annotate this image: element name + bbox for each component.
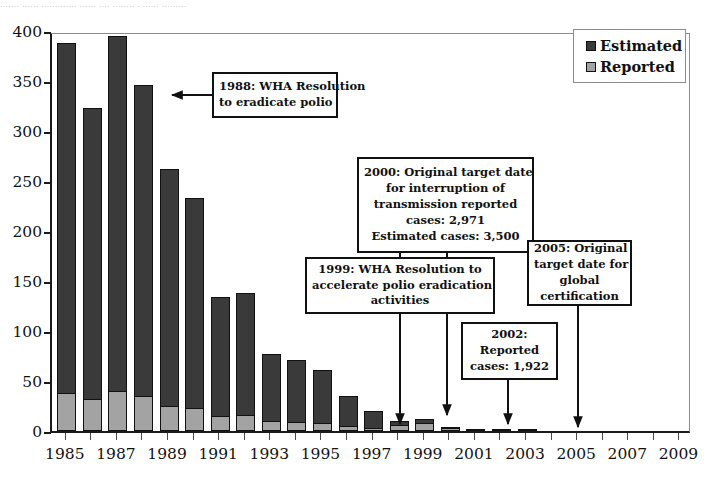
bar-reported [492,429,511,431]
bar-reported [211,416,230,431]
x-axis-tick [474,433,475,440]
x-axis-tick-label: 1995 [297,447,343,463]
annotation-line: Reported [468,343,551,359]
bar-reported [390,425,409,431]
x-axis-tick [397,433,398,440]
x-axis-tick-label: 1993 [246,447,292,463]
x-axis-tick [269,433,270,440]
annotation-2002-reported-cases: 2002:Reportedcases: 1,922 [461,322,558,380]
x-axis-tick [65,433,66,440]
y-axis-tick-label: 300 [0,125,42,141]
annotation-line: target date for [534,257,625,273]
x-axis-tick [602,433,603,440]
bar-reported [339,426,358,431]
x-axis-tick [320,433,321,440]
annotation-line: 1999: WHA Resolution to [312,262,488,278]
y-axis-tick [44,232,51,234]
bar-group [57,31,76,431]
bar-reported [134,396,153,431]
y-axis-tick-label: 200 [0,225,42,241]
x-axis-tick [525,433,526,440]
bar-estimated [160,169,179,431]
bar-estimated [83,108,102,431]
annotation-line: activities [312,293,488,309]
legend-item-reported: Reported [586,60,677,75]
x-axis-tick-label: 2005 [553,447,599,463]
x-axis-tick [116,433,117,440]
y-axis-tick [44,432,51,434]
x-axis-tick [576,433,577,440]
bar-estimated [262,354,281,431]
bar-group [185,31,204,431]
bar-reported [262,421,281,431]
legend-label-reported: Reported [600,60,675,75]
x-axis-tick-label: 1985 [42,447,88,463]
y-axis-tick-label: 150 [0,275,42,291]
annotation-1988-wha-resolution: 1988: WHA Resolutionto eradicate polio [212,72,338,118]
annotation-line: cases: 2,971 [364,213,527,229]
annotation-line: 2005: Original [534,241,625,257]
x-axis-tick [167,433,168,440]
bar-reported [287,422,306,431]
x-axis-tick-label: 1997 [349,447,395,463]
annotation-2005-global-certification: 2005: Originaltarget date forglobalcerti… [527,240,632,306]
legend-swatch-reported [586,62,596,72]
bar-estimated [185,198,204,431]
bar-group [160,31,179,431]
bar-reported [160,406,179,431]
x-axis-tick [141,433,142,440]
annotation-line: Estimated cases: 3,500 [364,229,527,245]
x-axis-tick [653,433,654,440]
x-axis-tick-label: 2009 [655,447,701,463]
x-axis-tick [244,433,245,440]
y-axis-tick-label: 250 [0,175,42,191]
y-axis-tick [44,282,51,284]
x-axis-tick [90,433,91,440]
bar-reported [57,393,76,431]
x-axis-tick-label: 2007 [604,447,650,463]
x-axis-tick [423,433,424,440]
x-axis-tick [218,433,219,440]
bar-reported [108,391,127,431]
legend-swatch-estimated [586,41,596,51]
x-axis-tick [499,433,500,440]
x-axis-tick-label: 1999 [400,447,446,463]
x-axis-tick [678,433,679,440]
chart-legend: Estimated Reported [573,29,686,83]
bar-estimated [134,85,153,431]
bar-reported [83,399,102,431]
y-axis-tick [44,132,51,134]
bar-estimated [211,297,230,431]
y-axis-tick [44,32,51,34]
bar-group [134,31,153,431]
annotation-line: for interruption of [364,181,527,197]
bar-group [108,31,127,431]
bar-estimated [313,370,332,431]
legend-item-estimated: Estimated [586,39,677,54]
x-axis-tick-label: 1987 [93,447,139,463]
x-axis-tick-label: 1989 [144,447,190,463]
y-axis-tick [44,182,51,184]
bar-reported [518,429,537,431]
x-axis-tick [372,433,373,440]
bar-reported [441,428,460,431]
bar-reported [364,428,383,432]
y-axis-tick-label: 50 [0,375,42,391]
bar-estimated [57,43,76,431]
bar-estimated [287,360,306,431]
y-axis-tick-label: 100 [0,325,42,341]
bar-estimated [236,293,255,431]
y-axis-tick-label: 0 [0,425,42,441]
annotation-line: certification [534,289,625,305]
y-axis-tick-label: 400 [0,25,42,41]
annotation-1999-wha-resolution: 1999: WHA Resolution toaccelerate polio … [305,257,495,314]
legend-label-estimated: Estimated [600,39,682,54]
x-axis-tick-label: 2003 [502,447,548,463]
bar-reported [313,423,332,431]
annotation-line: cases: 1,922 [468,359,551,375]
x-axis-tick [346,433,347,440]
x-axis-tick [193,433,194,440]
bar-group [83,31,102,431]
bar-reported [236,415,255,431]
annotation-line: global [534,273,625,289]
